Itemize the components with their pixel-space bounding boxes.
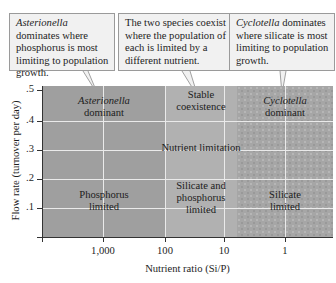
y-tick [37, 90, 42, 91]
label-cyclotella-dominant: Cyclotella dominant [247, 95, 323, 119]
y-tick [37, 121, 42, 122]
label-line: Phosphorus [79, 189, 128, 200]
y-axis-title: Flow rate (turnover per day) [10, 101, 21, 221]
y-tick-label: .4 [20, 114, 34, 125]
label-silicate-limited: Silicate limited [247, 189, 323, 213]
x-tick [103, 237, 104, 242]
x-tick [285, 237, 286, 242]
y-tick [37, 150, 42, 151]
label-species: Asterionella [78, 95, 130, 106]
y-tick-label: .3 [20, 143, 34, 154]
label-line: coexistence [176, 101, 225, 112]
label-line: limited [186, 204, 216, 215]
callout-cyclotella-species: Cyclotella [236, 17, 280, 28]
label-dominant: dominant [84, 107, 124, 118]
label-line: limited [270, 201, 300, 212]
x-axis [37, 237, 333, 238]
label-line: Nutrient limitation [161, 142, 240, 153]
y-tick-label: .1 [20, 201, 34, 212]
x-tick-label: 1,000 [83, 245, 123, 256]
callout-cyclotella: Cyclotella dominates where silicate is m… [229, 13, 335, 71]
label-line: phosphorus [177, 192, 226, 203]
label-asterionella-dominant: Asterionella dominant [62, 95, 146, 119]
y-tick [37, 179, 42, 180]
x-tick-label: 10 [204, 245, 244, 256]
y-tick-label: .2 [20, 172, 34, 183]
x-tick [224, 237, 225, 242]
x-tick-label: 100 [145, 245, 185, 256]
y-axis [42, 86, 43, 242]
label-line: limited [89, 201, 119, 212]
y-tick-label: .5 [20, 83, 34, 94]
label-silicate-phosphorus-limited: Silicate and phosphorus limited [165, 180, 237, 216]
label-species: Cyclotella [263, 95, 307, 106]
x-tick [165, 237, 166, 242]
plot-area: Asterionella dominant Phosphorus limited… [42, 86, 333, 237]
label-line: Silicate [269, 189, 301, 200]
x-tick-label: 1 [265, 245, 305, 256]
label-stable-coexistence: Stable coexistence [165, 89, 237, 113]
label-phosphorus-limited: Phosphorus limited [62, 189, 146, 213]
label-line: Stable [188, 89, 214, 100]
label-line: Silicate and [176, 180, 226, 191]
gridline-h [42, 121, 333, 122]
y-tick [37, 208, 42, 209]
label-dominant: dominant [265, 107, 305, 118]
label-nutrient-limitation: Nutrient limitation [151, 142, 251, 154]
x-axis-title: Nutrient ratio (Si/P) [42, 263, 333, 274]
